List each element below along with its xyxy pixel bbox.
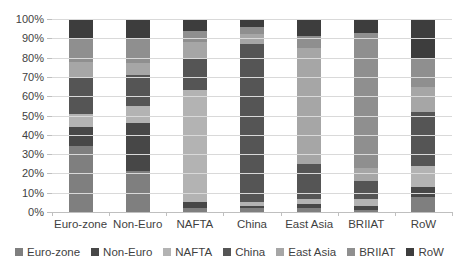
segment-briiat	[126, 38, 150, 63]
legend-label: BRIIAT	[359, 246, 395, 258]
legend: Euro-zoneNon-EuroNAFTAChinaEast AsiaBRII…	[0, 246, 459, 258]
legend-label: Euro-zone	[27, 246, 80, 258]
segment-non-euro	[126, 123, 150, 171]
y-axis-label: 20%	[22, 167, 44, 179]
x-axis-category-label: NAFTA	[166, 218, 223, 230]
x-axis-category-label: BRIIAT	[338, 218, 395, 230]
x-axis-category-label: Euro-zone	[52, 218, 109, 230]
segment-nafta	[411, 166, 435, 187]
x-axis-category-label: RoW	[395, 218, 452, 230]
legend-swatch-icon	[223, 248, 231, 256]
y-axis-label: 80%	[22, 52, 44, 64]
y-axis-tick	[47, 154, 52, 155]
legend-item-row: RoW	[406, 246, 444, 258]
y-axis-tick	[47, 96, 52, 97]
gridline	[52, 135, 452, 136]
segment-briiat	[411, 58, 435, 87]
x-axis-tick	[281, 212, 282, 216]
y-axis-label: 50%	[22, 110, 44, 122]
segment-euro-zone	[411, 197, 435, 212]
segment-china	[411, 112, 435, 166]
y-axis-label: 90%	[22, 32, 44, 44]
segment-nafta	[126, 106, 150, 123]
x-axis-tick	[395, 212, 396, 216]
y-axis-label: 0%	[28, 206, 44, 218]
x-axis-category-label: East Asia	[281, 218, 338, 230]
x-axis-tick	[166, 212, 167, 216]
segment-east-asia	[183, 42, 207, 57]
x-axis-tick	[109, 212, 110, 216]
x-axis-tick	[338, 212, 339, 216]
segment-china	[240, 44, 264, 202]
legend-item-non-euro: Non-Euro	[91, 246, 152, 258]
legend-item-euro-zone: Euro-zone	[15, 246, 80, 258]
segment-briiat	[183, 31, 207, 43]
x-axis-tick	[223, 212, 224, 216]
gridline	[52, 19, 452, 20]
y-axis-tick	[47, 58, 52, 59]
segment-east-asia	[297, 48, 321, 164]
segment-china	[126, 75, 150, 106]
x-axis-tick	[452, 212, 453, 216]
segment-east-asia	[240, 34, 264, 44]
legend-swatch-icon	[15, 248, 23, 256]
y-axis-label: 70%	[22, 71, 44, 83]
legend-swatch-icon	[347, 248, 355, 256]
segment-briiat	[354, 33, 378, 168]
x-axis-category-label: China	[223, 218, 280, 230]
segment-nafta	[354, 199, 378, 207]
y-axis-tick	[47, 193, 52, 194]
legend-label: RoW	[418, 246, 444, 258]
gridline	[52, 116, 452, 117]
gridline	[52, 212, 452, 213]
legend-item-nafta: NAFTA	[163, 246, 212, 258]
legend-swatch-icon	[91, 248, 99, 256]
y-axis-tick	[47, 38, 52, 39]
legend-swatch-icon	[163, 248, 171, 256]
segment-row	[240, 19, 264, 27]
y-axis-label: 30%	[22, 148, 44, 160]
segment-nafta	[183, 90, 207, 202]
plot-area: 100%90%80%70%60%50%40%30%20%10%0%	[52, 19, 452, 212]
segment-row	[354, 19, 378, 33]
segment-row	[297, 19, 321, 36]
segment-non-euro	[69, 127, 93, 146]
y-axis-tick	[47, 77, 52, 78]
gridline	[52, 193, 452, 194]
segment-east-asia	[354, 168, 378, 182]
segment-east-asia	[69, 62, 93, 77]
x-axis-category-label: Non-Euro	[109, 218, 166, 230]
legend-label: China	[235, 246, 265, 258]
gridline	[52, 58, 452, 59]
segment-china	[183, 58, 207, 91]
stacked-bar-chart: 100%90%80%70%60%50%40%30%20%10%0% Euro-z…	[0, 0, 459, 271]
legend-item-china: China	[223, 246, 265, 258]
legend-label: East Asia	[288, 246, 336, 258]
gridline	[52, 154, 452, 155]
y-axis-label: 10%	[22, 187, 44, 199]
legend-label: Non-Euro	[103, 246, 152, 258]
y-axis-tick	[47, 135, 52, 136]
gridline	[52, 96, 452, 97]
legend-item-briiat: BRIIAT	[347, 246, 395, 258]
segment-row	[69, 19, 93, 38]
segment-euro-zone	[126, 171, 150, 212]
segment-east-asia	[411, 87, 435, 112]
legend-swatch-icon	[276, 248, 284, 256]
legend-swatch-icon	[406, 248, 414, 256]
segment-non-euro	[411, 187, 435, 197]
x-axis-tick	[52, 212, 53, 216]
y-axis-tick	[47, 116, 52, 117]
y-axis-tick	[47, 173, 52, 174]
legend-item-east-asia: East Asia	[276, 246, 336, 258]
legend-label: NAFTA	[175, 246, 212, 258]
gridline	[52, 77, 452, 78]
x-axis-labels: Euro-zoneNon-EuroNAFTAChinaEast AsiaBRII…	[52, 218, 452, 230]
segment-row	[183, 19, 207, 31]
segment-briiat	[240, 27, 264, 35]
y-axis-label: 100%	[16, 13, 44, 25]
y-axis-label: 40%	[22, 129, 44, 141]
segment-euro-zone	[69, 146, 93, 212]
segment-east-asia	[126, 63, 150, 75]
gridline	[52, 173, 452, 174]
